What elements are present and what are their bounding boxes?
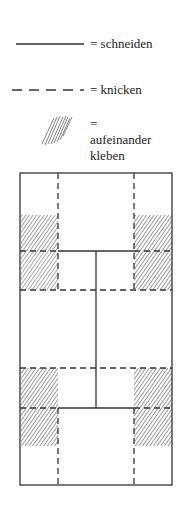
fold-template-diagram: [0, 0, 180, 512]
